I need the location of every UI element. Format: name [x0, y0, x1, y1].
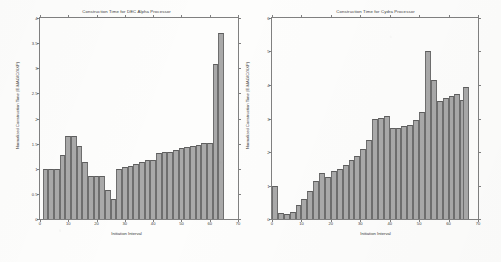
x-tick-top [390, 15, 391, 18]
x-tick-label: 20 [329, 219, 334, 226]
figure-page: Construction Time for DEC Alpha Processo… [0, 0, 501, 262]
y-tick-label: 2 [267, 149, 272, 154]
x-tick-top [68, 15, 69, 18]
y-axis-title-dec-alpha: Normalized Construction Time (E-MAGIC/XX… [15, 41, 20, 171]
y-tick-right [478, 18, 481, 19]
x-axis-title-dec-alpha: Initiation Interval [0, 231, 253, 236]
x-tick-label: 40 [387, 219, 392, 226]
y-tick-right [238, 169, 241, 170]
y-tick-right [238, 68, 241, 69]
y-tick-label: 1.5 [32, 141, 40, 146]
x-tick-top [125, 15, 126, 18]
bar [218, 33, 224, 219]
y-tick-right [238, 18, 241, 19]
bar-series-dec-alpha [40, 18, 238, 219]
x-tick-top [97, 15, 98, 18]
x-tick-label: 20 [94, 219, 99, 226]
x-tick-label: 30 [123, 219, 128, 226]
x-tick-label: 30 [358, 219, 363, 226]
x-tick-label: 0 [39, 219, 41, 226]
x-tick-top [419, 15, 420, 18]
plot-area-dec-alpha: 00.511.522.533.54 010203040506070 [39, 17, 239, 220]
y-tick-label: 1 [267, 183, 272, 188]
y-tick-right [478, 51, 481, 52]
x-tick-label: 60 [446, 219, 451, 226]
y-tick-right [478, 85, 481, 86]
x-tick-label: 0 [271, 219, 273, 226]
x-tick-top [40, 15, 41, 18]
x-tick-label: 10 [299, 219, 304, 226]
x-tick-top [210, 15, 211, 18]
y-tick-right [478, 119, 481, 120]
y-tick-right [238, 194, 241, 195]
y-tick-label: 3.5 [32, 41, 40, 46]
x-tick-top [360, 15, 361, 18]
y-tick-right [478, 186, 481, 187]
y-tick-label: 1 [35, 166, 40, 171]
chart-panel-dec-alpha: Construction Time for DEC Alpha Processo… [0, 0, 253, 262]
x-tick-label: 50 [179, 219, 184, 226]
y-tick-label: 3 [267, 116, 272, 121]
x-tick-label: 50 [417, 219, 422, 226]
x-tick-top [153, 15, 154, 18]
bar-series-cydra [272, 18, 478, 219]
chart-panel-cydra: Construction Time for Cydra Processor 01… [250, 0, 501, 262]
y-tick-label: 0.5 [32, 191, 40, 196]
x-tick-label: 10 [66, 219, 71, 226]
y-tick-right [238, 93, 241, 94]
x-tick-label: 70 [236, 219, 241, 226]
y-tick-right [238, 43, 241, 44]
x-tick-top [238, 15, 239, 18]
chart-title-dec-alpha: Construction Time for DEC Alpha Processo… [0, 9, 253, 14]
chart-title-cydra: Construction Time for Cydra Processor [250, 9, 501, 14]
plot-area-cydra: 0123456 010203040506070 [271, 17, 479, 220]
y-tick-label: 2 [35, 116, 40, 121]
y-tick-right [478, 152, 481, 153]
x-tick-label: 60 [207, 219, 212, 226]
y-tick-label: 3 [35, 66, 40, 71]
x-tick-label: 70 [476, 219, 481, 226]
y-tick-right [238, 144, 241, 145]
bar [463, 87, 469, 219]
x-tick-top [331, 15, 332, 18]
x-tick-label: 40 [151, 219, 156, 226]
x-tick-top [272, 15, 273, 18]
y-tick-label: 2.5 [32, 91, 40, 96]
y-axis-title-cydra: Normalized Construction Time (E-MAGIC/XX… [245, 41, 250, 171]
x-axis-title-cydra: Initiation Interval [250, 231, 501, 236]
x-tick-top [478, 15, 479, 18]
x-tick-top [181, 15, 182, 18]
x-tick-top [449, 15, 450, 18]
y-tick-right [238, 119, 241, 120]
y-tick-label: 5 [267, 49, 272, 54]
y-tick-label: 4 [267, 82, 272, 87]
x-tick-top [301, 15, 302, 18]
